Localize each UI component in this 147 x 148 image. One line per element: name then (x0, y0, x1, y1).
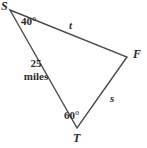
side-measure-label-st: 25 miles (18, 57, 54, 82)
vertex-label-f: F (133, 48, 141, 60)
vertex-label-s: S (1, 0, 8, 12)
triangle-figure: S F T 40° 60° t s 25 miles (0, 0, 147, 148)
side-label-t: t (69, 20, 72, 31)
angle-label-s: 40° (21, 16, 36, 27)
angle-label-t: 60° (64, 110, 79, 121)
vertex-label-t: T (73, 132, 80, 144)
side-label-s: s (110, 93, 114, 104)
measure-value: 25 (18, 57, 54, 70)
measure-unit: miles (18, 70, 54, 83)
